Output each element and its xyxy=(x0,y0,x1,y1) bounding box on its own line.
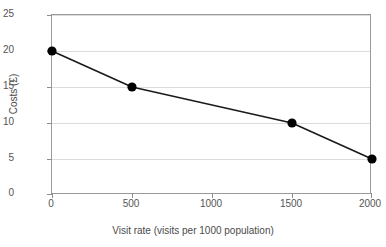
data-point-1500 xyxy=(287,118,296,127)
data-series-layer xyxy=(52,15,372,195)
plot-area xyxy=(51,14,371,194)
y-tick-label-25: 25 xyxy=(3,9,14,19)
y-tick-label-15: 15 xyxy=(3,81,14,91)
chart-figure: Costs (£) Visit rate (visits per 1000 po… xyxy=(0,0,386,247)
x-tick-label-1500: 1500 xyxy=(280,199,302,209)
x-tick-label-1000: 1000 xyxy=(200,199,222,209)
data-point-2000 xyxy=(367,154,376,163)
data-point-500 xyxy=(127,82,136,91)
x-tick-label-0: 0 xyxy=(48,199,54,209)
x-tick-label-2000: 2000 xyxy=(359,199,381,209)
y-tick-label-0: 0 xyxy=(8,188,14,198)
x-tick-label-500: 500 xyxy=(123,199,140,209)
y-tick-label-10: 10 xyxy=(3,117,14,127)
series-line-costs xyxy=(52,51,372,159)
x-axis-title: Visit rate (visits per 1000 population) xyxy=(0,225,386,237)
data-point-0 xyxy=(47,46,56,55)
y-tick-label-20: 20 xyxy=(3,45,14,55)
y-tick-label-5: 5 xyxy=(8,153,14,163)
